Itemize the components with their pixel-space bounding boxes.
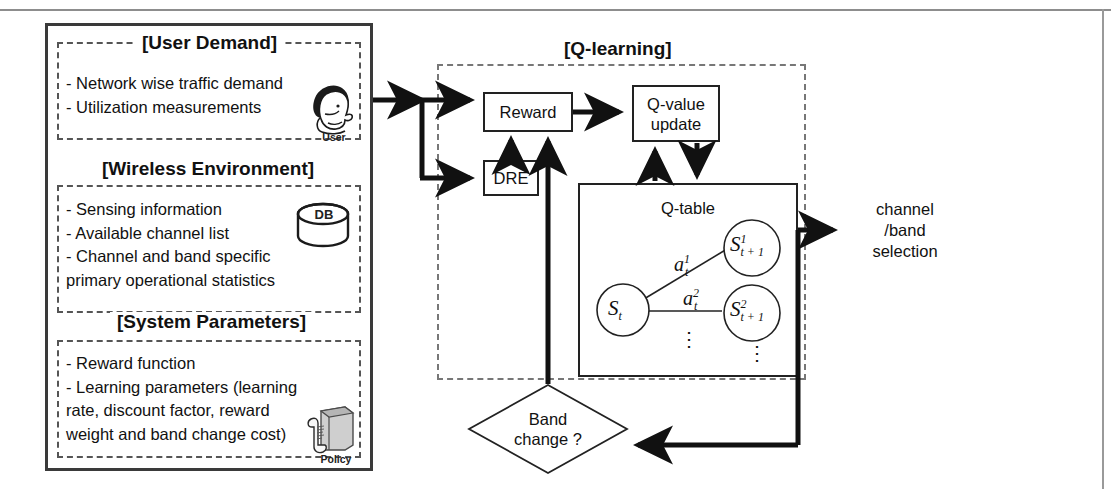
node-sub: t + 1 <box>741 310 764 324</box>
qtable-edge-a-2: a2t <box>683 286 697 314</box>
diagram-canvas: [User Demand] - Network wise traffic dem… <box>0 0 1111 489</box>
node-sub: t + 1 <box>741 245 764 259</box>
qlearning-title: [Q-learning] <box>556 38 680 60</box>
node-base: S <box>730 232 741 256</box>
decision-band-change[interactable]: Band change ? <box>469 385 627 473</box>
section-wireless-environment-bullets: - Sensing information - Available channe… <box>66 198 275 292</box>
qtable-node-s-t: St <box>608 296 622 324</box>
qtable-node-s-t1-1: S1t + 1 <box>730 232 764 260</box>
block-qtable-label: Q-table <box>580 199 796 218</box>
decision-label-line1: Band <box>529 409 568 429</box>
edge-sub: t <box>694 299 697 313</box>
output-line1: channel <box>845 199 965 220</box>
policy-icon-label: Policy <box>312 453 360 465</box>
section-user-demand-bullets: - Network wise traffic demand - Utilizat… <box>66 72 283 119</box>
node-sub: t <box>619 309 622 323</box>
qtable-ellipsis-actions: ⋮ <box>679 330 699 348</box>
node-sup: 1 <box>741 232 747 246</box>
edge-sup: 1 <box>684 252 690 266</box>
bullet: rate, discount factor, reward <box>66 399 297 423</box>
database-icon-label: DB <box>303 207 345 222</box>
section-system-parameters-bullets: - Reward function - Learning parameters … <box>66 352 297 446</box>
section-system-parameters-title: [System Parameters] <box>110 312 313 331</box>
bullet: weight and band change cost) <box>66 423 297 447</box>
block-qvalue-update-label-line1: Q-value <box>647 94 705 114</box>
block-qvalue-update[interactable]: Q-value update <box>632 85 720 142</box>
section-wireless-environment-title: [Wireless Environment] <box>95 159 321 178</box>
output-line2: /band <box>845 220 965 241</box>
edge-base: a <box>683 287 693 309</box>
block-qvalue-update-label-line2: update <box>651 114 701 134</box>
node-sup: 2 <box>741 297 747 311</box>
page-right-border <box>1102 9 1104 489</box>
output-channel-band-selection: channel /band selection <box>845 199 965 262</box>
block-dre[interactable]: DRE <box>483 160 539 196</box>
bullet: - Available channel list <box>66 222 275 246</box>
edge-sup: 2 <box>693 286 699 300</box>
output-line3: selection <box>845 241 965 262</box>
node-base: S <box>608 296 619 320</box>
bullet: - Channel and band specific <box>66 245 275 269</box>
edge-sub: t <box>685 265 688 279</box>
decision-label-line2: change ? <box>514 429 582 449</box>
user-icon-label: User <box>314 131 354 143</box>
qtable-ellipsis-states: ⋮ <box>747 344 767 362</box>
section-user-demand-title: [User Demand] <box>135 33 284 52</box>
block-reward[interactable]: Reward <box>483 92 573 132</box>
bullet: - Reward function <box>66 352 297 376</box>
page-top-border <box>0 9 1111 11</box>
block-reward-label: Reward <box>500 102 557 122</box>
bullet: primary operational statistics <box>66 269 275 293</box>
bullet: - Learning parameters (learning <box>66 376 297 400</box>
bullet: - Network wise traffic demand <box>66 72 283 96</box>
bullet: - Utilization measurements <box>66 96 283 120</box>
bullet: - Sensing information <box>66 198 275 222</box>
qtable-node-s-t1-2: S2t + 1 <box>730 297 764 325</box>
node-base: S <box>730 297 741 321</box>
edge-base: a <box>674 253 684 275</box>
qtable-edge-a-1: a1t <box>674 252 688 280</box>
block-dre-label: DRE <box>494 168 529 188</box>
